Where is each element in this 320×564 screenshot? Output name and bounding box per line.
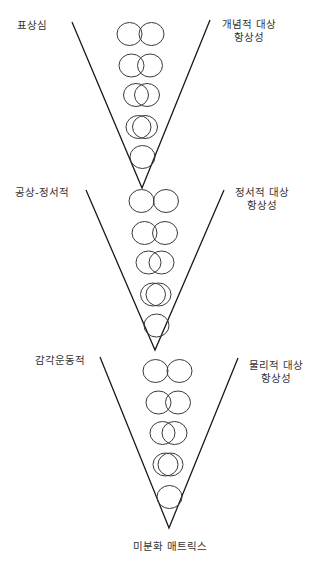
circle-shape	[135, 84, 160, 107]
circle-shape	[154, 190, 179, 213]
circle-shape	[133, 116, 158, 139]
circle-shape	[138, 54, 163, 77]
circle-shape	[157, 486, 182, 509]
circle-shape	[143, 360, 168, 383]
circle-pair	[141, 283, 172, 306]
circle-shape	[124, 84, 149, 107]
circle-shape	[126, 116, 151, 139]
right-constancy-label: 물리적 대상	[249, 359, 302, 371]
levels-group: 표상심개념적 대상항상성공상-정서적정서적 대상항상성감각운동적물리적 대상항상…	[15, 18, 303, 528]
right-constancy-label: 개념적 대상	[222, 18, 275, 30]
circle-pair	[146, 391, 191, 414]
circle-pair	[126, 116, 158, 139]
circle-pair	[130, 146, 155, 169]
left-stage-label: 표상심	[17, 19, 47, 31]
circle-pair	[143, 360, 192, 383]
circle-shape	[129, 190, 154, 213]
right-constancy-label: 항상성	[247, 199, 277, 211]
circle-pair	[150, 422, 187, 445]
circle-shape	[117, 23, 142, 46]
right-constancy-label: 항상성	[234, 31, 264, 43]
level-representational: 표상심개념적 대상항상성	[17, 18, 276, 188]
circle-pair	[117, 23, 164, 46]
circle-pair	[124, 84, 160, 107]
circle-pair	[129, 190, 179, 213]
circle-pair	[136, 251, 174, 274]
circle-shape	[139, 23, 164, 46]
circle-shape	[132, 222, 157, 245]
circle-shape	[166, 391, 191, 414]
circle-shape	[146, 283, 171, 306]
circle-pair	[132, 222, 178, 245]
right-constancy-label: 정서적 대상	[235, 186, 288, 198]
circle-shape	[153, 453, 178, 476]
level-phantasmic-emotional: 공상-정서적정서적 대상항상성	[15, 186, 289, 350]
bottom-label-undifferentiated-matrix: 미분화 매트릭스	[133, 540, 206, 552]
left-stage-label: 공상-정서적	[15, 186, 69, 198]
v-funnel-lines	[86, 190, 224, 350]
developmental-spiral-diagram: 표상심개념적 대상항상성공상-정서적정서적 대상항상성감각운동적물리적 대상항상…	[0, 0, 320, 564]
circle-shape	[167, 360, 192, 383]
circle-pair	[119, 54, 163, 77]
left-stage-label: 감각운동적	[35, 354, 85, 366]
circle-shape	[130, 146, 155, 169]
v-funnel-lines	[72, 20, 210, 188]
level-sensorimotor: 감각운동적물리적 대상항상성	[35, 354, 303, 528]
circle-shape	[153, 222, 178, 245]
circle-pair	[157, 486, 182, 509]
circle-shape	[158, 453, 183, 476]
circle-shape	[141, 283, 166, 306]
circle-shape	[119, 54, 144, 77]
circle-pair	[153, 453, 183, 476]
circle-shape	[146, 391, 171, 414]
right-constancy-label: 항상성	[261, 372, 291, 384]
